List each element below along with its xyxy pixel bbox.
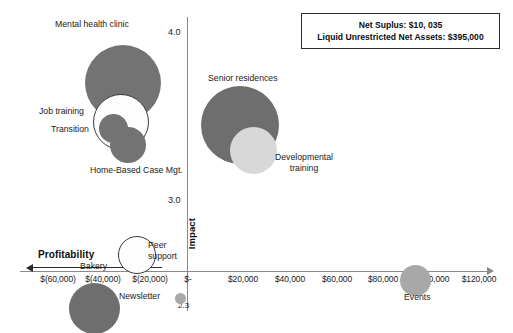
x-tick-label: $- xyxy=(166,274,210,284)
bubble-label-newsletter: Newsletter xyxy=(119,291,160,302)
bubble-label-peer-support: Peer support xyxy=(148,240,184,262)
bubble-home-based-case-mgt[interactable] xyxy=(110,127,146,163)
bubble-label-job-training: Job training xyxy=(39,106,84,117)
bubble-bakery[interactable] xyxy=(69,283,120,333)
y-axis-title: Impact xyxy=(186,218,197,249)
bubble-label-mental-health-clinic: Mental health clinic xyxy=(55,19,129,30)
bubble-label-events: Events xyxy=(404,292,431,303)
bubble-label-developmental-training: Developmental training xyxy=(270,152,338,174)
bubble-label-peer-support-line2: support xyxy=(148,251,184,262)
bubble-label-senior-residences: Senior residences xyxy=(208,73,278,84)
bubble-label-developmental-training-line1: Developmental xyxy=(270,152,338,163)
y-axis-line xyxy=(187,17,188,311)
y-tick-label: 3.0 xyxy=(168,195,181,205)
x-axis-title: Profitability xyxy=(38,249,94,260)
bubble-label-developmental-training-line2: training xyxy=(270,163,338,174)
profitability-arrow-left-icon xyxy=(26,264,33,272)
bubble-chart: Profitability Impact $(60,000) $(40,000)… xyxy=(0,0,513,333)
bubble-label-bakery: Bakery xyxy=(80,261,107,272)
liquid-net-assets-text: Liquid Unrestricted Net Assets: $395,000 xyxy=(317,31,483,43)
bubble-label-transition: Transition xyxy=(51,124,89,135)
bubble-label-peer-support-line1: Peer xyxy=(148,240,184,251)
y-tick-label: 4.0 xyxy=(168,27,181,37)
net-surplus-text: Net Suplus: $10, 035 xyxy=(359,19,443,31)
bubble-newsletter[interactable] xyxy=(175,293,186,304)
bubble-label-home-based-case-mgt: Home-Based Case Mgt. xyxy=(90,165,183,176)
x-tick-label: $120,000 xyxy=(446,274,512,284)
summary-callout-box: Net Suplus: $10, 035 Liquid Unrestricted… xyxy=(301,13,500,49)
